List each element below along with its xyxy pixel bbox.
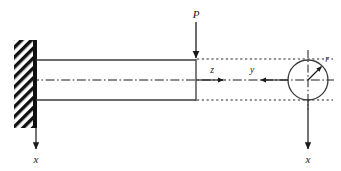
radius-label: r <box>325 54 329 64</box>
x-axis-label-right: x <box>305 153 311 165</box>
x-axis-label-left: x <box>33 153 39 165</box>
y-axis-label: y <box>249 65 255 75</box>
diagram-canvas: P z y r x x <box>0 0 341 171</box>
wall-hatching <box>14 40 34 128</box>
beam-diagram-figure: P z y r x x <box>0 0 341 171</box>
load-label: P <box>192 8 200 20</box>
z-axis-label: z <box>209 65 214 75</box>
wall-face-bar <box>33 40 37 128</box>
radius-arrow <box>308 67 322 81</box>
fixed-support-wall <box>14 40 37 128</box>
